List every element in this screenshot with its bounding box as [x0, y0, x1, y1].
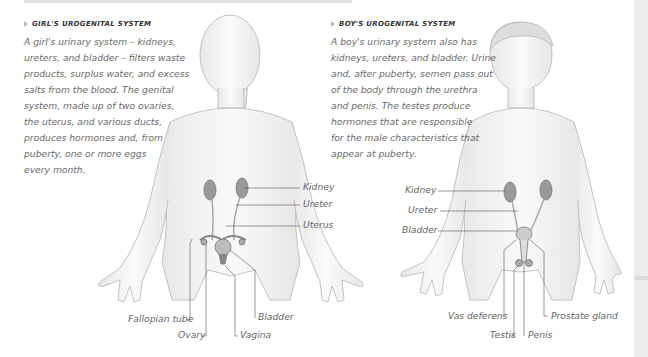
text-line: and, after puberty, semen pass out	[331, 66, 496, 82]
boy-section-heading: BOY'S UROGENITAL SYSTEM	[331, 20, 456, 28]
boy-label-bladder: Bladder	[402, 224, 438, 235]
boy-label-prostate-gland: Prostate gland	[551, 310, 618, 321]
girl-label-fallopian-tube: Fallopian tube	[128, 313, 193, 324]
girl-label-uterus: Uterus	[303, 219, 333, 230]
boy-description: A boy's urinary system also has kidneys,…	[331, 34, 496, 162]
boy-label-testis: Testis	[490, 329, 516, 340]
text-line: every month.	[24, 162, 189, 178]
text-line: produces hormones and, from	[24, 130, 189, 146]
text-line: and penis. The testes produce	[331, 98, 496, 114]
text-line: puberty, one or more eggs	[24, 146, 189, 162]
girl-heading-text: GIRL'S UROGENITAL SYSTEM	[32, 20, 151, 28]
text-line: A boy's urinary system also has	[331, 34, 496, 50]
girl-description: A girl's urinary system – kidneys, urete…	[24, 34, 189, 178]
boy-heading-text: BOY'S UROGENITAL SYSTEM	[339, 20, 456, 28]
text-line: for the male characteristics that	[331, 130, 496, 146]
boy-label-vas-deferens: Vas deferens	[448, 310, 507, 321]
boy-label-ureter: Ureter	[408, 204, 437, 215]
girl-label-kidney: Kidney	[303, 181, 334, 192]
text-line: salts from the blood. The genital	[24, 82, 189, 98]
triangle-bullet-icon	[331, 21, 335, 27]
text-line: the uterus, and various ducts,	[24, 114, 189, 130]
triangle-bullet-icon	[24, 21, 28, 27]
text-line: A girl's urinary system – kidneys,	[24, 34, 189, 50]
text-line: products, surplus water, and excess	[24, 66, 189, 82]
girl-label-ovary: Ovary	[178, 329, 206, 340]
text-line: ureters, and bladder – filters waste	[24, 50, 189, 66]
boy-label-penis: Penis	[528, 329, 552, 340]
boy-label-kidney: Kidney	[405, 184, 436, 195]
girl-label-ureter: Ureter	[303, 198, 332, 209]
girl-section-heading: GIRL'S UROGENITAL SYSTEM	[24, 20, 151, 28]
text-line: hormones that are responsible	[331, 114, 496, 130]
text-line: appear at puberty.	[331, 146, 496, 162]
text-line: of the body through the urethra	[331, 82, 496, 98]
text-line: system, made up of two ovaries,	[24, 98, 189, 114]
girl-label-vagina: Vagina	[240, 329, 271, 340]
text-line: kidneys, ureters, and bladder. Urine	[331, 50, 496, 66]
girl-label-bladder: Bladder	[258, 311, 294, 322]
